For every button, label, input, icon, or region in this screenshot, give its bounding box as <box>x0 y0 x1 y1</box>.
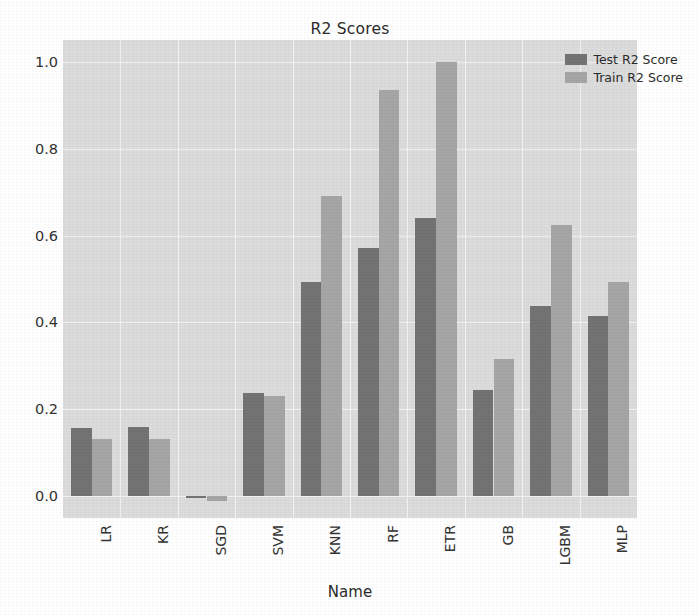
bar-kr-train <box>149 439 170 496</box>
bar-svm-train <box>264 396 285 496</box>
bar-mlp-train <box>608 282 629 497</box>
y-tick-label-5: 1.0 <box>10 54 58 70</box>
legend-label: Train R2 Score <box>593 70 683 85</box>
bar-rf-train <box>379 90 400 497</box>
bar-kr-test <box>128 427 149 496</box>
x-tick-label-gb: GB <box>500 525 516 545</box>
y-tick-label-1: 0.2 <box>10 401 58 417</box>
legend-item-train[interactable]: Train R2 Score <box>565 70 683 85</box>
chart-figure: R2 Scores 0.00.20.40.60.81.0 LRKRSGDSVMK… <box>0 0 699 615</box>
bar-knn-test <box>301 282 322 496</box>
legend-swatch-icon-train <box>565 72 587 83</box>
bar-lr-train <box>92 439 113 496</box>
legend-label: Test R2 Score <box>593 52 677 67</box>
bar-sgd-train <box>207 496 228 500</box>
bar-lr-test <box>71 428 92 496</box>
x-tick-label-mlp: MLP <box>614 525 630 553</box>
chart-title: R2 Scores <box>63 20 637 38</box>
bar-knn-train <box>321 196 342 496</box>
y-tick-label-4: 0.8 <box>10 141 58 157</box>
x-tick-label-kr: KR <box>155 525 171 544</box>
x-tick-label-rf: RF <box>385 525 401 543</box>
bar-sgd-test <box>186 496 207 498</box>
bar-etr-test <box>415 218 436 497</box>
bar-lgbm-test <box>530 306 551 496</box>
y-tick-label-2: 0.4 <box>10 314 58 330</box>
bars-layer <box>63 40 637 518</box>
x-tick-label-knn: KNN <box>327 525 343 555</box>
bar-etr-train <box>436 62 457 497</box>
legend-swatch-icon-test <box>565 54 587 65</box>
x-axis-label: Name <box>63 583 637 601</box>
x-tick-label-svm: SVM <box>270 525 286 556</box>
legend: Test R2 ScoreTrain R2 Score <box>561 50 687 87</box>
x-tick-label-lgbm: LGBM <box>557 525 573 565</box>
bar-gb-train <box>494 359 515 496</box>
bar-lgbm-train <box>551 225 572 496</box>
bar-gb-test <box>473 390 494 496</box>
x-tick-label-lr: LR <box>98 525 114 543</box>
plot-area <box>63 40 637 518</box>
y-tick-label-3: 0.6 <box>10 228 58 244</box>
x-tick-label-etr: ETR <box>442 525 458 552</box>
y-tick-label-0: 0.0 <box>10 488 58 504</box>
x-tick-label-sgd: SGD <box>213 525 229 556</box>
bar-svm-test <box>243 393 264 496</box>
bar-rf-test <box>358 248 379 497</box>
legend-item-test[interactable]: Test R2 Score <box>565 52 683 67</box>
bar-mlp-test <box>588 316 609 496</box>
